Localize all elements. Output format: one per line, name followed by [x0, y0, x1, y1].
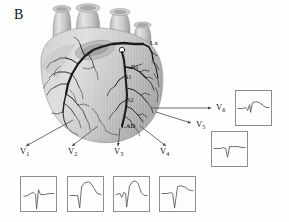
ecg-trace-v5 — [214, 147, 245, 158]
lead-label-v2-sub: 2 — [74, 151, 77, 157]
lead-label-v5: V5 — [196, 119, 205, 129]
pointer-V5 — [156, 112, 191, 123]
ecg-box-v2 — [67, 176, 104, 212]
lead-label-v6-sub: 6 — [222, 107, 225, 113]
ecg-box-v5 — [211, 131, 248, 167]
pointer-V4 — [140, 126, 166, 146]
annotation-s1: S1 — [125, 74, 132, 80]
ecg-trace-v6 — [238, 102, 269, 113]
lead-label-v5-sub: 5 — [202, 124, 205, 130]
ecg-box-v4 — [159, 176, 196, 212]
ecg-trace-v4 — [162, 186, 193, 208]
pointer-V1 — [26, 120, 73, 146]
lead-label-v2: V2 — [68, 146, 77, 156]
annotation-d1: D1 — [131, 64, 139, 70]
lead-label-v1-sub: 1 — [26, 151, 29, 157]
lead-label-v3-sub: 3 — [120, 151, 123, 157]
ecg-box-v3 — [113, 176, 150, 212]
ecg-trace-v3 — [116, 181, 147, 207]
lead-label-v1: V1 — [20, 146, 29, 156]
lead-label-v4: V4 — [160, 146, 169, 156]
ecg-box-v6 — [235, 90, 272, 126]
lead-label-v6: V6 — [216, 102, 225, 112]
ecg-trace-v2 — [70, 182, 101, 208]
figure-panel-b: B — [0, 0, 289, 222]
ecg-trace-v1 — [24, 190, 54, 209]
annotation-lx: Lx — [150, 39, 158, 47]
lead-label-v4-sub: 4 — [166, 151, 169, 157]
ecg-box-v1 — [20, 176, 57, 212]
lead-label-v3: V3 — [114, 146, 123, 156]
annotation-lad: LAD — [121, 122, 136, 130]
annotation-s2: S2 — [127, 97, 134, 103]
